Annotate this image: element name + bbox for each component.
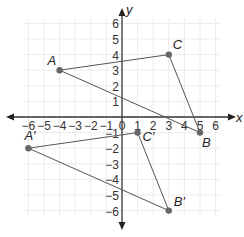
y-axis-up-arrow-icon <box>119 8 126 16</box>
vertex-point <box>166 51 172 57</box>
coordinate-plane: x y −6−5−4−3−2−10123456123456−1−2−3−4−5−… <box>0 0 244 237</box>
x-tick-label: −2 <box>84 119 98 133</box>
y-tick-label: 4 <box>112 49 119 63</box>
x-axis-left-arrow-icon <box>6 114 14 121</box>
y-tick-label: 3 <box>112 64 119 78</box>
vertex-label: B′ <box>174 194 186 209</box>
y-axis-down-arrow-icon <box>119 222 126 230</box>
x-tick-label: 6 <box>212 119 219 133</box>
x-axis-label: x <box>235 110 243 125</box>
y-axis-label: y <box>125 2 134 17</box>
y-tick-label: 5 <box>112 33 119 47</box>
y-tick-label: −1 <box>105 127 119 141</box>
vertex-label: B <box>202 135 211 150</box>
x-tick-label: 3 <box>165 119 172 133</box>
x-tick-label: −4 <box>53 119 67 133</box>
x-tick-label: −5 <box>37 119 51 133</box>
x-axis-right-arrow-icon <box>228 114 236 121</box>
x-tick-label: 0 <box>119 119 126 133</box>
axes: x y <box>6 2 243 230</box>
vertex-label: A′ <box>23 128 36 143</box>
y-tick-label: −3 <box>105 158 119 172</box>
y-tick-label: −5 <box>105 189 119 203</box>
vertex-label: C′ <box>143 129 155 144</box>
vertex-point <box>166 207 172 213</box>
vertex-point <box>56 67 62 73</box>
vertex-label: A <box>47 53 57 68</box>
tick-labels: −6−5−4−3−2−10123456123456−1−2−3−4−5−6 <box>22 17 220 218</box>
x-tick-label: −3 <box>68 119 82 133</box>
triangle-side <box>28 133 137 149</box>
y-tick-label: 1 <box>112 95 119 109</box>
y-tick-label: 6 <box>112 17 119 31</box>
vertex-point <box>25 145 31 151</box>
y-tick-label: −6 <box>105 205 119 219</box>
vertex-point <box>134 129 140 135</box>
y-tick-label: −2 <box>105 142 119 156</box>
vertex-label: C <box>173 37 183 52</box>
y-tick-label: 2 <box>112 80 119 94</box>
